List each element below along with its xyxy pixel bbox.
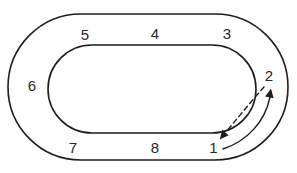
position-label-3: 3 (223, 25, 231, 42)
position-label-7: 7 (69, 139, 77, 156)
outer-track-boundary (8, 14, 288, 160)
inner-track-boundary (48, 45, 256, 133)
position-label-4: 4 (151, 25, 159, 42)
solid-arrowhead-icon (265, 89, 274, 99)
position-label-5: 5 (81, 26, 89, 43)
oval-track-canvas: 1 2 3 4 5 6 7 8 (0, 0, 297, 173)
oval-track-figure: 1 2 3 4 5 6 7 8 (0, 0, 297, 173)
dashed-arrow (226, 87, 264, 132)
position-label-6: 6 (28, 77, 36, 94)
position-label-8: 8 (151, 139, 159, 156)
position-label-2: 2 (265, 67, 273, 84)
position-label-1: 1 (209, 139, 217, 156)
